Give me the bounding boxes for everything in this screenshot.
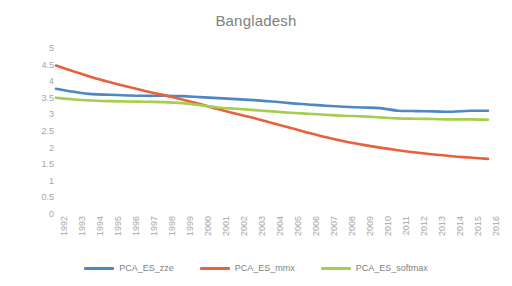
x-axis-tick-label: 2009 <box>366 216 375 236</box>
x-axis-tick: 1999 <box>186 216 195 236</box>
x-axis-tick-label: 2011 <box>402 216 411 235</box>
x-axis-tick: 2010 <box>384 216 393 236</box>
y-axis-tick: 3 <box>20 110 54 119</box>
x-axis-tick-label: 2005 <box>294 216 303 236</box>
x-axis-tick-label: 1998 <box>168 216 177 236</box>
x-axis-tick-label: 2006 <box>312 216 321 236</box>
y-axis-tick: 3.5 <box>20 94 54 103</box>
x-axis-tick-label: 2003 <box>258 216 267 236</box>
x-axis-tick-label: 2007 <box>330 216 339 236</box>
x-axis-tick: 2016 <box>492 216 501 236</box>
x-axis-tick: 1996 <box>132 216 141 236</box>
x-axis-tick: 2009 <box>366 216 375 236</box>
y-axis-tick: 4 <box>20 77 54 86</box>
x-axis-tick: 2004 <box>276 216 285 236</box>
x-axis-tick: 2002 <box>240 216 249 236</box>
chart-legend: PCA_ES_zzePCA_ES_mmxPCA_ES_softmax <box>0 259 512 277</box>
x-axis-tick: 2014 <box>456 216 465 236</box>
x-axis-tick: 2005 <box>294 216 303 236</box>
x-axis-tick: 2001 <box>222 216 231 236</box>
plot-area <box>56 48 488 214</box>
x-axis-tick-label: 2001 <box>222 216 231 236</box>
x-axis-tick: 2011 <box>402 216 411 235</box>
x-axis-tick-label: 1997 <box>150 216 159 236</box>
x-axis-tick: 2006 <box>312 216 321 236</box>
x-axis-tick-label: 2000 <box>204 216 213 236</box>
x-axis-tick-label: 2010 <box>384 216 393 236</box>
y-axis-tick: 1.5 <box>20 160 54 169</box>
x-axis-tick-label: 2012 <box>420 216 429 236</box>
x-axis-tick-label: 1996 <box>132 216 141 236</box>
x-axis: 1992199319941995199619971998199920002001… <box>56 216 488 258</box>
x-axis-tick-label: 2016 <box>492 216 501 236</box>
legend-item-label: PCA_ES_mmx <box>235 264 295 273</box>
x-axis-tick-label: 1999 <box>186 216 195 236</box>
x-axis-tick: 2012 <box>420 216 429 236</box>
x-axis-tick-label: 2015 <box>474 216 483 236</box>
x-axis-tick-label: 1994 <box>96 216 105 236</box>
y-axis-tick: 5 <box>20 44 54 53</box>
y-axis-tick: 4.5 <box>20 61 54 70</box>
x-axis-tick-label: 1992 <box>60 216 69 236</box>
legend-item[interactable]: PCA_ES_mmx <box>200 264 295 273</box>
y-axis-tick: 0.5 <box>20 193 54 202</box>
x-axis-tick: 2003 <box>258 216 267 236</box>
x-axis-tick: 2015 <box>474 216 483 236</box>
x-axis-tick-label: 2014 <box>456 216 465 236</box>
x-axis-tick-label: 1993 <box>78 216 87 236</box>
x-axis-tick: 2013 <box>438 216 447 236</box>
legend-color-swatch <box>84 267 114 270</box>
x-axis-tick-label: 1995 <box>114 216 123 236</box>
line-chart: Bangladesh 54.543.532.521.510.50 1992199… <box>0 0 512 286</box>
x-axis-tick: 1995 <box>114 216 123 236</box>
x-axis-tick-label: 2008 <box>348 216 357 236</box>
x-axis-tick: 1994 <box>96 216 105 236</box>
y-axis-tick: 2 <box>20 144 54 153</box>
x-axis-tick: 1998 <box>168 216 177 236</box>
legend-item[interactable]: PCA_ES_softmax <box>321 264 428 273</box>
legend-color-swatch <box>321 267 351 270</box>
x-axis-tick: 2008 <box>348 216 357 236</box>
x-axis-tick: 1993 <box>78 216 87 236</box>
y-axis-tick: 1 <box>20 177 54 186</box>
legend-item-label: PCA_ES_zze <box>119 264 174 273</box>
y-axis-tick: 2.5 <box>20 127 54 136</box>
legend-item-label: PCA_ES_softmax <box>356 264 428 273</box>
plot-svg <box>56 48 488 214</box>
x-axis-tick-label: 2004 <box>276 216 285 236</box>
y-axis: 54.543.532.521.510.50 <box>20 40 54 222</box>
chart-title: Bangladesh <box>0 12 512 29</box>
legend-color-swatch <box>200 267 230 270</box>
x-axis-tick: 1997 <box>150 216 159 236</box>
x-axis-tick-label: 2002 <box>240 216 249 236</box>
y-axis-tick: 0 <box>20 210 54 219</box>
x-axis-tick-label: 2013 <box>438 216 447 236</box>
x-axis-tick: 2007 <box>330 216 339 236</box>
x-axis-tick: 2000 <box>204 216 213 236</box>
x-axis-tick: 1992 <box>60 216 69 236</box>
legend-item[interactable]: PCA_ES_zze <box>84 264 174 273</box>
